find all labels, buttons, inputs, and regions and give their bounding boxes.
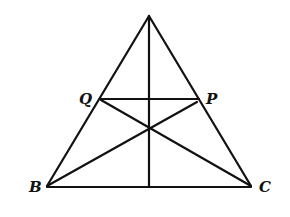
label-c: C xyxy=(259,178,271,196)
side-ab xyxy=(47,16,149,186)
label-b: B xyxy=(28,178,42,196)
triangle-diagram: Q P B C xyxy=(0,0,290,217)
segment-bp xyxy=(47,102,197,186)
label-p: P xyxy=(205,90,218,108)
label-q: Q xyxy=(79,90,92,108)
side-ac xyxy=(149,16,251,186)
